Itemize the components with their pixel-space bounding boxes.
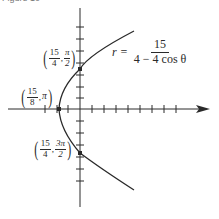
r-denominator: 4 — [42, 150, 49, 159]
equation-fraction: 15 4 − 4 cos θ — [133, 38, 188, 67]
r-denominator: 8 — [29, 98, 36, 107]
point-marker-vertex — [57, 107, 61, 111]
theta-denominator: 2 — [57, 150, 64, 159]
plot-canvas — [0, 0, 219, 219]
equation-numerator: 15 — [151, 38, 169, 53]
bottom-point-label: ( 154 , 3π2 ) — [33, 139, 73, 159]
r-numerator: 15 — [40, 139, 51, 149]
r-numerator: 15 — [27, 87, 38, 97]
theta-value: π — [42, 92, 47, 102]
top-point-label: ( 154 , π2 ) — [42, 48, 77, 68]
theta-numerator: π — [64, 48, 71, 58]
point-marker-top — [78, 67, 82, 71]
vertex-point-label: ( 158 , π ) — [20, 87, 53, 107]
r-numerator: 15 — [49, 48, 60, 58]
theta-numerator: 3π — [55, 139, 66, 149]
polar-parabola-figure: Figure 10 — [0, 0, 219, 219]
equation-label: r = 15 4 − 4 cos θ — [112, 38, 187, 67]
r-denominator: 4 — [51, 59, 58, 68]
equation-denominator: 4 − 4 cos θ — [133, 53, 188, 67]
theta-denominator: 2 — [64, 59, 71, 68]
equation-lhs: r = — [112, 45, 128, 60]
point-marker-bottom — [78, 151, 82, 155]
